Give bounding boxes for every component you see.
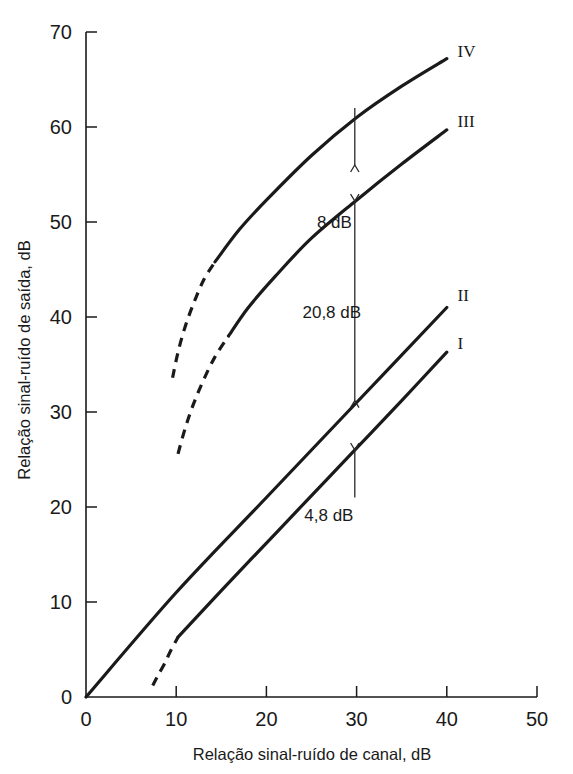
- curve-label-ii: II: [458, 286, 470, 305]
- annotation-label-gap-208db: 20,8 dB: [302, 303, 361, 322]
- curve-ii-solid: [86, 308, 447, 698]
- curve-group: IIIIIIIV: [86, 42, 476, 697]
- x-tick-label: 20: [255, 708, 277, 730]
- x-tick-label: 0: [80, 708, 91, 730]
- y-tick-label: 40: [50, 306, 72, 328]
- curve-iv-dashed: [173, 262, 215, 378]
- y-tick-label: 10: [50, 591, 72, 613]
- annotation-label-gap-48db: 4,8 dB: [304, 506, 353, 525]
- x-tick-label: 30: [345, 708, 367, 730]
- annotation-group: 8 dB20,8 dB4,8 dB: [302, 108, 361, 525]
- curve-label-iv: IV: [458, 42, 477, 61]
- curve-label-i: I: [458, 334, 464, 353]
- signal-to-noise-chart: 010203040506070 01020304050 IIIIIIIV 8 d…: [0, 0, 573, 774]
- axis-group: [86, 32, 537, 697]
- y-tick-label: 60: [50, 116, 72, 138]
- y-tick-label: 30: [50, 401, 72, 423]
- x-axis-ticks: 01020304050: [80, 686, 548, 730]
- curve-i-dashed: [153, 637, 178, 685]
- x-tick-label: 50: [526, 708, 548, 730]
- curve-label-iii: III: [458, 112, 475, 131]
- y-tick-label: 0: [61, 686, 72, 708]
- x-tick-label: 40: [436, 708, 458, 730]
- y-axis-title: Relação sinal-ruído de saída, dB: [15, 240, 33, 479]
- y-tick-label: 70: [50, 21, 72, 43]
- y-tick-label: 50: [50, 211, 72, 233]
- y-tick-label: 20: [50, 496, 72, 518]
- x-axis-title: Relação sinal-ruído de canal, dB: [193, 745, 431, 763]
- curve-i-solid: [178, 352, 447, 637]
- annotation-label-gap-8db: 8 dB: [317, 213, 352, 232]
- curve-iii-dashed: [178, 336, 229, 454]
- x-tick-label: 10: [165, 708, 187, 730]
- figure-container: 010203040506070 01020304050 IIIIIIIV 8 d…: [0, 0, 573, 774]
- y-axis-ticks: 010203040506070: [50, 21, 97, 708]
- arrow-head: [351, 165, 359, 172]
